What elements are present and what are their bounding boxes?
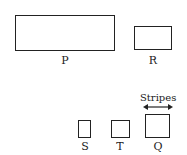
square-t (111, 120, 130, 138)
label-p: P (55, 55, 75, 67)
double-arrow-icon (143, 103, 173, 111)
label-q: Q (148, 141, 168, 153)
label-s: S (75, 141, 95, 153)
rectangle-p (15, 15, 115, 51)
label-t: T (110, 141, 130, 153)
rectangle-r (134, 26, 172, 50)
square-q (145, 114, 170, 138)
rectangle-s (78, 120, 91, 138)
stripes-label: Stripes (140, 92, 176, 103)
label-r: R (143, 55, 163, 67)
